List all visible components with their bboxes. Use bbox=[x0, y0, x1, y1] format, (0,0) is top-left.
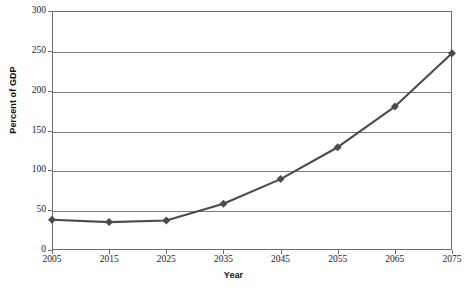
line-chart: 050100150200250300 Percent of GDP 200520… bbox=[0, 0, 467, 288]
data-point-marker bbox=[162, 217, 170, 225]
data-point-marker bbox=[277, 175, 285, 183]
data-point-marker bbox=[48, 216, 56, 224]
data-point-marker bbox=[219, 200, 227, 208]
data-point-marker bbox=[105, 218, 113, 226]
series-line bbox=[52, 53, 452, 222]
series-layer bbox=[0, 0, 467, 288]
